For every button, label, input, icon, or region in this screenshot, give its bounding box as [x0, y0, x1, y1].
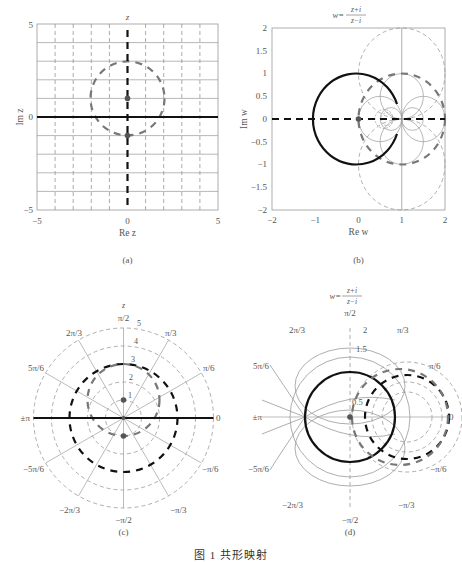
svg-text:−0.5: −0.5	[251, 137, 268, 147]
svg-text:0: 0	[356, 215, 361, 225]
panel-c-label: (c)	[119, 527, 129, 537]
svg-text:5: 5	[137, 319, 141, 328]
svg-text:−2π/3: −2π/3	[59, 505, 81, 515]
panel-d-title-lhs: w=	[330, 291, 341, 301]
svg-text:2π/3: 2π/3	[289, 325, 306, 335]
panel-a-xlabel: Re z	[119, 228, 136, 238]
svg-text:−1: −1	[310, 215, 320, 225]
panel-c-radial-labels: 1 2 3 4 5	[128, 319, 141, 400]
svg-text:−2π/3: −2π/3	[282, 500, 304, 510]
panel-c-point-minus-i	[121, 433, 127, 439]
panel-b-xlabel: Re w	[349, 227, 369, 237]
svg-text:0: 0	[216, 413, 221, 423]
svg-text:π/3: π/3	[397, 325, 409, 335]
panel-d-title-den: z−i	[346, 297, 357, 306]
svg-text:3: 3	[131, 355, 135, 364]
panel-b-title-den: z−i	[350, 16, 361, 25]
svg-text:5π/6: 5π/6	[253, 361, 270, 371]
svg-text:0: 0	[263, 114, 268, 124]
svg-text:2π/3: 2π/3	[66, 328, 83, 338]
panel-a: z 5 0 −5 −5 0 5 Re z Im z (a)	[15, 12, 221, 265]
panel-a-ylabel: Im z	[15, 108, 25, 125]
svg-text:π/6: π/6	[203, 363, 215, 373]
svg-text:π/3: π/3	[165, 328, 177, 338]
panel-a-point-minus-i	[125, 133, 131, 139]
svg-text:1: 1	[263, 68, 268, 78]
svg-text:π/2: π/2	[344, 308, 356, 318]
panel-a-xtick: 0	[125, 216, 130, 226]
svg-text:0.5: 0.5	[256, 91, 268, 101]
panel-a-xtick: 5	[216, 216, 221, 226]
svg-text:1: 1	[400, 215, 405, 225]
svg-text:4: 4	[134, 337, 138, 346]
panel-b-yticks: 2 1.5 1 0.5 0 −0.5 −1 −1.5 −2	[251, 23, 268, 215]
panel-a-ytick: 0	[29, 112, 34, 122]
panel-a-ytick: 5	[29, 20, 34, 30]
svg-text:2: 2	[443, 215, 448, 225]
panel-b-title-num: z+i	[350, 5, 361, 14]
svg-text:−1.5: −1.5	[251, 182, 268, 192]
svg-text:2: 2	[129, 373, 133, 382]
panel-b-label: (b)	[353, 255, 364, 265]
svg-text:0: 0	[449, 412, 454, 422]
panel-c-title: z	[121, 301, 126, 310]
panel-d-radial-labels: 0.5 1.5 2	[352, 325, 367, 407]
panel-a-title: z	[125, 12, 130, 22]
svg-text:2: 2	[363, 325, 367, 335]
panel-b-xticks: −2 −1 0 1 2	[267, 215, 447, 225]
svg-text:−1: −1	[257, 159, 267, 169]
svg-text:−2: −2	[257, 205, 267, 215]
svg-text:−π/6: −π/6	[430, 464, 447, 474]
svg-text:π/6: π/6	[429, 361, 441, 371]
panel-d-label: (d)	[345, 527, 356, 537]
svg-text:π/2: π/2	[118, 313, 130, 323]
panel-a-ytick: −5	[23, 205, 33, 215]
panel-a-label: (a)	[123, 255, 133, 265]
panel-b-title-lhs: w=	[333, 10, 344, 20]
panel-c: z 1 2 3 4 5 0 π/6 π/3 π/2 2π/3 5π/6 ±π −…	[21, 301, 221, 537]
panel-d: w= z+i z−i 0.5 1.5 2 0 π/6 π/3 π/2 2π/3 …	[248, 286, 462, 537]
panel-d-title-num: z+i	[346, 286, 357, 295]
svg-text:0.5: 0.5	[352, 397, 363, 407]
svg-text:−π/3: −π/3	[170, 505, 187, 515]
svg-text:5π/6: 5π/6	[28, 363, 45, 373]
panel-b-point-origin	[356, 116, 362, 122]
panel-c-origin	[122, 416, 126, 420]
svg-text:1.5: 1.5	[356, 344, 367, 354]
svg-text:2: 2	[263, 23, 268, 33]
panel-b-ylabel: Im w	[239, 109, 249, 129]
svg-text:−π/2: −π/2	[342, 515, 359, 525]
figure-caption: 图 1 共形映射	[0, 546, 462, 562]
svg-text:−5π/6: −5π/6	[248, 464, 270, 474]
svg-text:−2: −2	[267, 215, 277, 225]
panel-a-xtick: −5	[32, 216, 42, 226]
panel-a-point-i	[125, 96, 131, 102]
svg-text:−π/3: −π/3	[398, 500, 415, 510]
svg-text:−π/6: −π/6	[202, 464, 219, 474]
svg-text:−5π/6: −5π/6	[23, 464, 45, 474]
panel-c-point-i	[121, 397, 127, 403]
panel-d-point-origin	[347, 414, 353, 420]
svg-text:1.5: 1.5	[256, 46, 268, 56]
svg-text:−π/2: −π/2	[115, 515, 132, 525]
svg-text:1: 1	[128, 391, 132, 400]
panel-b: w= z+i z−i 2 1.5 1 0.5 0 −0.5 −1 −1.5 −2…	[239, 5, 447, 265]
svg-text:±π: ±π	[253, 412, 263, 422]
svg-text:±π: ±π	[21, 413, 31, 423]
